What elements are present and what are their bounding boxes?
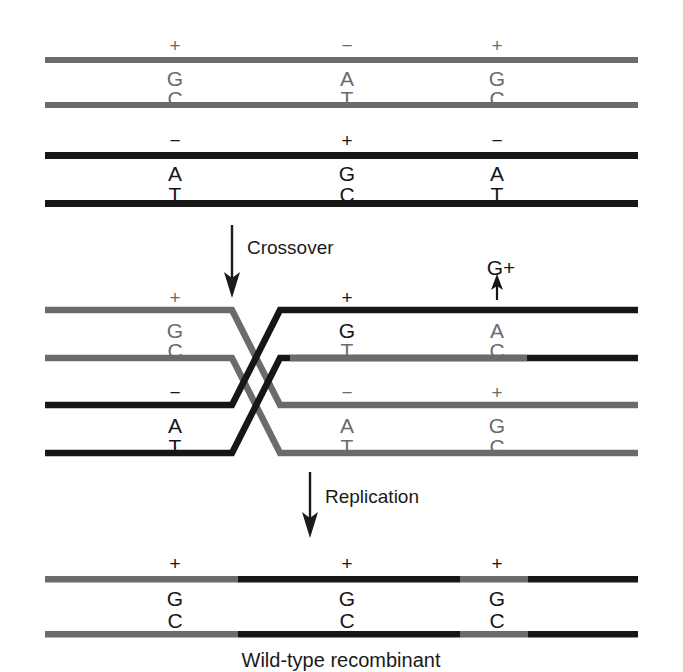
parental-black-top-base-1: A [168,163,182,184]
recombinant-bottom-seg-black-2 [528,631,638,638]
hetero-lower-right-top-base: G [489,415,505,436]
figure-caption: Wild-type recombinant [242,650,441,670]
hetero-upper-left-top-base: G [167,320,183,341]
hetero-lower-left-sign: − [169,383,180,402]
hetero-upper-right-bottom-base: C [489,340,504,361]
gray-strand-top [45,57,638,63]
recombinant-bottom-base-1: C [167,610,182,631]
hetero-lower-left-top-base: A [168,415,182,436]
hetero-lower-mid-bottom-base: T [341,436,354,457]
hetero-upper-mid-sign: + [341,288,352,307]
parental-black-sign-3: − [491,131,502,150]
figure-canvas: + − + G A G C T C − + − A G A T C T Cros… [0,0,683,672]
parental-black-top-base-2: G [339,163,355,184]
parental-gray-sign-3: + [491,36,502,55]
recombinant-bottom-seg-gray-1 [45,631,238,638]
recombinant-bottom-base-3: C [489,610,504,631]
recombinant-bottom-base-2: C [339,610,354,631]
recombinant-sign-1: + [169,554,180,573]
hetero-upper-mid-bottom-base: T [341,340,354,361]
crossover-arrow [224,225,240,298]
parental-gray-bottom-base-3: C [489,88,504,109]
parental-black-bottom-base-3: T [491,184,504,205]
parental-gray-bottom-base-2: T [341,88,354,109]
hetero-upper-mid-top-base: G [339,320,355,341]
hetero-lower-mid-sign: − [341,383,352,402]
recombinant-top-seg-gray-2 [460,576,528,583]
hetero-lower-right-bottom-base: C [489,436,504,457]
replication-arrow [302,472,318,538]
parental-gray-bottom-base-1: C [167,88,182,109]
mismatch-callout-label: G+ [487,257,516,278]
hetero-lower-left-bottom-base: T [169,436,182,457]
hetero-upper-left-sign: + [169,288,180,307]
parental-black-bottom-base-2: C [339,184,354,205]
hetero-upper-right-top-base: A [490,320,504,341]
step-label-replication: Replication [325,487,419,506]
recombinant-top-base-2: G [339,588,355,609]
recombinant-top-base-3: G [489,588,505,609]
hetero-lower-mid-top-base: A [340,415,354,436]
recombinant-sign-2: + [341,554,352,573]
parental-black-bottom-base-1: T [169,184,182,205]
recombinant-top-base-1: G [167,588,183,609]
recombinant-top-seg-black-2 [528,576,638,583]
parental-gray-sign-2: − [341,36,352,55]
hetero-lower-right-sign: + [491,383,502,402]
recombinant-sign-3: + [491,554,502,573]
parental-black-top-base-3: A [490,163,504,184]
parental-gray-top-base-2: A [340,68,354,89]
hetero-upper-left-bottom-base: C [167,340,182,361]
parental-gray-top-base-3: G [489,68,505,89]
step-label-crossover: Crossover [247,238,334,257]
parental-black-sign-1: − [169,131,180,150]
black-strand-top [45,152,638,159]
parental-black-sign-2: + [341,131,352,150]
recombinant-top-seg-black-1 [238,576,460,583]
recombinant-top-seg-gray-1 [45,576,238,583]
parental-gray-sign-1: + [169,36,180,55]
parental-gray-top-base-1: G [167,68,183,89]
